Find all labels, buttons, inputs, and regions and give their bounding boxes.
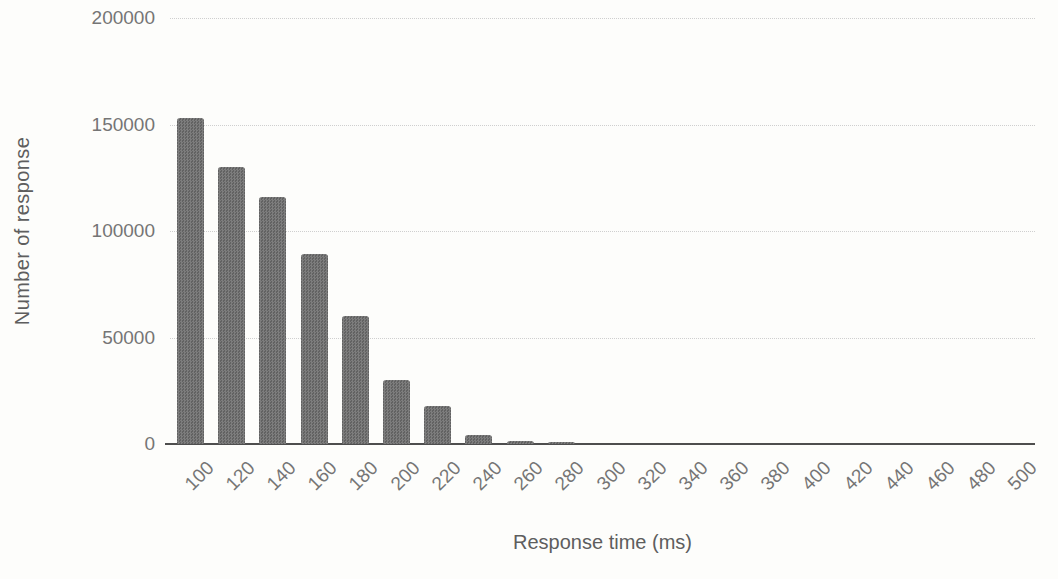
bar-280	[548, 442, 575, 444]
y-tick-label-200000: 200000	[45, 8, 155, 28]
x-tick-label-420: 420	[839, 457, 877, 495]
y-axis-title: Number of response	[11, 137, 34, 325]
x-tick-label-140: 140	[263, 457, 301, 495]
x-tick-label-360: 360	[716, 457, 754, 495]
x-tick-label-300: 300	[592, 457, 630, 495]
x-tick-label-280: 280	[551, 457, 589, 495]
x-tick-label-320: 320	[633, 457, 671, 495]
bar-140	[259, 197, 286, 444]
bar-120	[218, 167, 245, 444]
bar-240	[465, 435, 492, 444]
bar-100	[177, 118, 204, 444]
x-tick-label-120: 120	[221, 457, 259, 495]
gridline-150000	[170, 125, 1035, 126]
x-tick-label-220: 220	[427, 457, 465, 495]
bar-220	[424, 406, 451, 444]
x-tick-label-500: 500	[1004, 457, 1042, 495]
x-tick-label-380: 380	[757, 457, 795, 495]
y-tick-label-150000: 150000	[45, 115, 155, 135]
y-tick-label-100000: 100000	[45, 221, 155, 241]
x-tick-label-100: 100	[180, 457, 218, 495]
x-axis-line	[165, 443, 1035, 445]
bar-chart: Number of response 050000100000150000200…	[0, 0, 1058, 579]
x-tick-label-260: 260	[510, 457, 548, 495]
gridline-50000	[170, 338, 1035, 339]
x-tick-label-400: 400	[798, 457, 836, 495]
bar-260	[507, 441, 534, 444]
bar-200	[383, 380, 410, 444]
x-tick-label-240: 240	[469, 457, 507, 495]
y-tick-label-0: 0	[45, 434, 155, 454]
x-tick-label-180: 180	[345, 457, 383, 495]
bar-180	[342, 316, 369, 444]
gridline-200000	[170, 18, 1035, 19]
x-tick-label-460: 460	[922, 457, 960, 495]
x-tick-label-340: 340	[674, 457, 712, 495]
x-tick-label-160: 160	[304, 457, 342, 495]
plot-area: 0500001000001500002000001001201401601802…	[170, 18, 1035, 444]
gridline-100000	[170, 231, 1035, 232]
x-tick-label-480: 480	[963, 457, 1001, 495]
x-tick-label-440: 440	[880, 457, 918, 495]
bar-160	[301, 254, 328, 444]
x-tick-label-200: 200	[386, 457, 424, 495]
y-tick-label-50000: 50000	[45, 328, 155, 348]
x-axis-title: Response time (ms)	[170, 531, 1035, 554]
